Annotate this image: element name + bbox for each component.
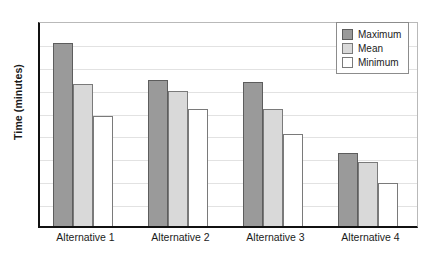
chart-legend: MaximumMeanMinimum [336,22,409,74]
bar-maximum[interactable] [148,80,168,226]
legend-label: Minimum [358,57,399,68]
x-axis-tick-labels: Alternative 1Alternative 2Alternative 3A… [38,231,418,253]
legend-item-maximum[interactable]: Maximum [342,27,401,41]
legend-swatch-mean-icon [342,43,353,54]
bar-group [148,23,210,226]
bar-minimum[interactable] [283,134,303,226]
x-tick-label: Alternative 2 [133,231,228,243]
legend-swatch-maximum-icon [342,29,353,40]
x-tick-label: Alternative 1 [38,231,133,243]
bar-minimum[interactable] [93,116,113,226]
legend-item-mean[interactable]: Mean [342,41,401,55]
legend-item-minimum[interactable]: Minimum [342,55,401,69]
bar-minimum[interactable] [188,109,208,226]
legend-label: Maximum [358,29,401,40]
bar-group [243,23,305,226]
bar-minimum[interactable] [378,183,398,226]
x-tick-label: Alternative 3 [228,231,323,243]
x-tick-label: Alternative 4 [323,231,418,243]
bar-mean[interactable] [263,109,283,226]
legend-label: Mean [358,43,383,54]
bar-group [53,23,115,226]
bar-maximum[interactable] [53,43,73,226]
bar-mean[interactable] [358,162,378,226]
bar-maximum[interactable] [243,82,263,226]
y-axis-title: Time (minutes) [12,32,24,172]
bar-maximum[interactable] [338,153,358,226]
legend-swatch-minimum-icon [342,57,353,68]
bar-mean[interactable] [168,91,188,226]
bar-mean[interactable] [73,84,93,226]
bar-chart-figure: Time (minutes) Alternative 1Alternative … [0,0,436,256]
